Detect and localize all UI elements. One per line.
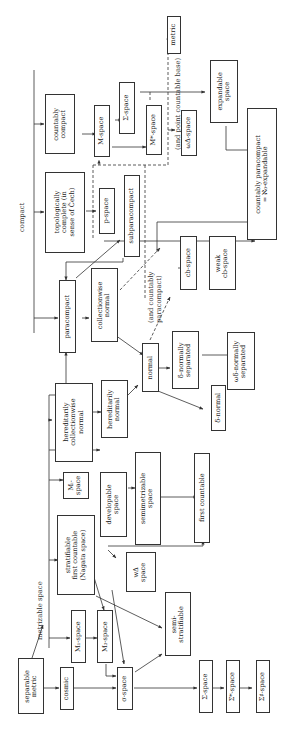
node-Sigma-space-top[interactable]: Σ-space: [119, 82, 135, 134]
node-Mi-space[interactable]: Mᵢ- space: [63, 472, 89, 499]
node-stratifiable-first-countable[interactable]: stratifiable first countable (Nagata spa…: [57, 515, 95, 595]
group-label-metrizable-space: metrizable space: [36, 581, 44, 640]
node-delta-normal[interactable]: δ-normal: [211, 385, 226, 431]
diagram-canvas: compact metrizable space (and point coun…: [0, 0, 291, 748]
node-paracompact[interactable]: paracompact: [59, 280, 76, 353]
node-weak-cb-space[interactable]: weak cb-space: [209, 236, 236, 290]
node-collectionwise-normal[interactable]: collectionwise normal: [91, 268, 118, 342]
edge-strat-to-sigma: [112, 590, 124, 664]
node-hereditarily-collectionwise-normal[interactable]: hereditarily collectionwise normal: [55, 383, 93, 462]
node-developable-space[interactable]: developable space: [100, 472, 127, 537]
node-M3-space[interactable]: M₃-space: [97, 610, 113, 663]
group-label-compact: compact: [18, 203, 26, 232]
node-w-delta-space[interactable]: wΔ space: [126, 552, 156, 592]
node-cosmic[interactable]: cosmic: [60, 667, 74, 710]
node-expandable-space[interactable]: expandable space: [210, 60, 238, 123]
node-subparacompact[interactable]: subparacompact: [124, 175, 140, 257]
node-first-countable[interactable]: first countable: [194, 453, 210, 543]
group-label-and-countably-paracompact: (and countably paracompact): [147, 272, 163, 323]
node-sigma-space[interactable]: σ-space: [117, 667, 133, 710]
node-w-delta-normally-separated[interactable]: ωδ-normally separated: [227, 332, 255, 390]
node-p-space[interactable]: p-space: [99, 188, 115, 234]
node-semi-stratifiable[interactable]: semi- stratifiable: [165, 592, 191, 656]
node-topologically-complete[interactable]: topologically complete (in sense of Čech…: [45, 172, 85, 253]
node-metric[interactable]: metric: [167, 16, 181, 54]
node-M1-space[interactable]: M₁-space: [71, 610, 86, 663]
edge-cwn-to-normal: [115, 335, 143, 355]
node-Sigma-sharp-space[interactable]: Σ♯-space: [256, 660, 270, 713]
node-Sigma-star-space[interactable]: Σ*-space: [226, 660, 240, 713]
node-countably-compact[interactable]: countably compact: [45, 94, 75, 154]
node-Sigma-space-bottom[interactable]: Σ-space: [199, 660, 213, 713]
node-normal[interactable]: normal: [142, 343, 159, 392]
edge-normal-to-dnormal: [158, 391, 203, 409]
node-delta-normally-separated[interactable]: δ-normally separated: [172, 331, 199, 389]
node-countably-paracompact[interactable]: countably paracompact = ℵ₀-expandable: [247, 108, 277, 240]
node-cb-space[interactable]: cb-space: [180, 236, 197, 290]
node-M-space[interactable]: M-space: [94, 105, 110, 157]
node-hereditarily-normal[interactable]: hereditarily normal: [101, 380, 128, 438]
edge-sigma-to-semistrat: [135, 654, 162, 672]
edge-strat-to-wdelta: [108, 550, 116, 558]
node-semimetrizable-space[interactable]: semimetrizable space: [135, 452, 161, 545]
node-separable-metric[interactable]: separable metric: [18, 658, 44, 714]
node-w-Delta-space[interactable]: ωΔ-space: [181, 110, 197, 156]
node-M-star-space[interactable]: M*-space: [146, 105, 162, 155]
